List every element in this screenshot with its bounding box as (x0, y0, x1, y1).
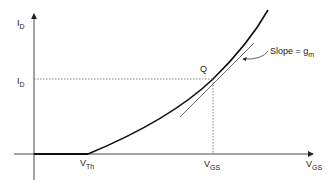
q-point-label: Q (200, 64, 207, 74)
id-marker-label: ID (17, 76, 25, 88)
x-axis-label: VGS (306, 159, 322, 171)
threshold-label: VTh (80, 158, 94, 170)
transfer-curve (88, 10, 268, 154)
slope-pointer-arrow (243, 51, 268, 59)
vgs-marker-label: VGS (204, 159, 220, 171)
transfer-characteristic-diagram: ID ID Q VTh VGS VGS Slope = gm (0, 0, 335, 185)
y-axis-label: ID (17, 18, 25, 30)
slope-label: Slope = gm (270, 46, 314, 58)
tangent-line (180, 43, 254, 117)
